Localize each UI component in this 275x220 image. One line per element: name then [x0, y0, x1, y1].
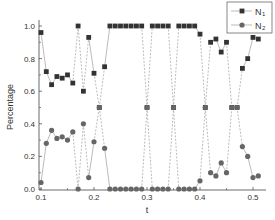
- data-point-circle: [107, 186, 112, 191]
- data-point-circle: [224, 170, 229, 175]
- data-point-circle: [123, 186, 128, 191]
- series-segment: [227, 42, 232, 107]
- legend-label: N: [255, 21, 262, 31]
- data-point-square: [102, 64, 107, 69]
- x-tick-label: 0.5: [247, 193, 259, 202]
- data-point-square: [113, 24, 118, 29]
- series-layer: [38, 24, 261, 192]
- data-point-square: [251, 35, 256, 40]
- data-point-square: [60, 76, 65, 81]
- data-point-circle: [176, 186, 181, 191]
- series-segment: [168, 26, 173, 108]
- series-segment: [94, 108, 99, 142]
- data-point-circle: [245, 154, 250, 159]
- y-tick-label: 0.4: [24, 120, 36, 129]
- data-point-circle: [229, 105, 234, 110]
- series-n2: [38, 105, 261, 192]
- data-point-circle: [235, 105, 240, 110]
- series-segment: [227, 108, 232, 173]
- data-point-circle: [192, 186, 197, 191]
- series-segment: [147, 108, 152, 190]
- series-segment: [89, 37, 94, 73]
- series-segment: [237, 68, 242, 107]
- data-point-square: [150, 24, 155, 29]
- x-tick-label: 0.3: [141, 193, 153, 202]
- data-point-circle: [65, 138, 70, 143]
- data-point-circle: [144, 105, 149, 110]
- data-point-circle: [54, 136, 59, 141]
- data-point-square: [219, 50, 224, 55]
- series-segment: [142, 26, 147, 108]
- data-point-circle: [219, 160, 224, 165]
- data-point-square: [256, 37, 261, 42]
- data-point-circle: [102, 146, 107, 151]
- series-segment: [168, 108, 173, 190]
- series-segment: [78, 26, 83, 91]
- data-point-circle: [76, 186, 81, 191]
- legend-square-marker: [240, 9, 245, 14]
- x-tick-label: 0.1: [35, 193, 47, 202]
- series-segment: [237, 108, 242, 147]
- series-segment: [99, 108, 104, 149]
- series-segment: [205, 42, 210, 107]
- data-point-square: [245, 56, 250, 61]
- line-chart: 0.00.20.40.60.81.00.10.20.30.40.5 Percen…: [0, 0, 275, 220]
- data-point-square: [92, 71, 97, 76]
- series-segment: [248, 37, 253, 58]
- data-point-square: [214, 37, 219, 42]
- series-segment: [78, 124, 83, 189]
- data-point-square: [155, 24, 160, 29]
- series-segment: [89, 142, 94, 178]
- data-point-square: [39, 30, 44, 35]
- series-segment: [41, 33, 46, 72]
- data-point-circle: [240, 144, 245, 149]
- data-point-square: [123, 24, 128, 29]
- data-point-circle: [208, 170, 213, 175]
- series-segment: [83, 37, 88, 91]
- data-point-square: [129, 24, 134, 29]
- y-axis-title: Percentage: [5, 84, 15, 130]
- series-segment: [41, 143, 46, 182]
- data-point-square: [44, 69, 49, 74]
- data-point-square: [134, 24, 139, 29]
- data-point-square: [118, 24, 123, 29]
- data-point-square: [65, 73, 70, 78]
- series-segment: [147, 26, 152, 108]
- data-point-square: [49, 82, 54, 87]
- data-point-square: [224, 40, 229, 45]
- data-point-square: [55, 74, 60, 79]
- data-point-square: [161, 24, 166, 29]
- legend: N1N2: [227, 2, 272, 33]
- data-point-circle: [150, 186, 155, 191]
- series-segment: [105, 26, 110, 67]
- series-n1: [39, 24, 261, 110]
- data-point-circle: [91, 139, 96, 144]
- series-segment: [200, 108, 205, 181]
- data-point-circle: [113, 186, 118, 191]
- data-point-circle: [118, 186, 123, 191]
- series-segment: [248, 156, 253, 177]
- data-point-circle: [166, 186, 171, 191]
- data-point-square: [240, 66, 245, 71]
- series-segment: [205, 108, 210, 173]
- y-tick-label: 0.8: [24, 55, 36, 64]
- y-tick-label: 0.6: [24, 87, 36, 96]
- data-point-circle: [187, 186, 192, 191]
- series-segment: [73, 26, 78, 83]
- data-point-circle: [139, 186, 144, 191]
- x-tick-label: 0.2: [88, 193, 100, 202]
- data-point-circle: [171, 105, 176, 110]
- data-point-circle: [70, 129, 75, 134]
- data-point-circle: [256, 173, 261, 178]
- data-point-square: [208, 40, 213, 45]
- axes: 0.00.20.40.60.81.00.10.20.30.40.5: [24, 20, 266, 202]
- legend-circle-marker: [239, 22, 244, 27]
- legend-label: N: [255, 7, 262, 17]
- series-segment: [200, 34, 205, 107]
- data-point-circle: [250, 175, 255, 180]
- data-point-square: [108, 24, 113, 29]
- y-tick-label: 0.0: [24, 185, 36, 194]
- series-segment: [94, 73, 99, 107]
- y-tick-label: 1.0: [24, 22, 36, 31]
- data-point-square: [176, 24, 181, 29]
